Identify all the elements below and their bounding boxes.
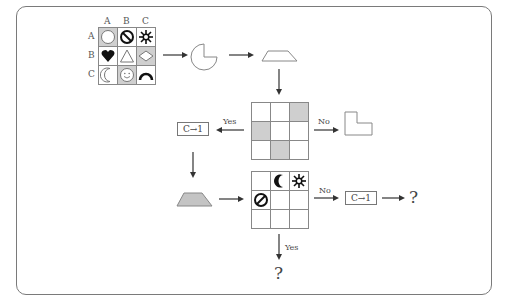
- trapezoid-gray-shape: [176, 192, 214, 208]
- column-label-a: A: [104, 16, 111, 26]
- grid-cell-ab: [118, 28, 137, 47]
- pattern-cell-shaded: [252, 122, 271, 141]
- arrow-down-icon: [188, 152, 198, 180]
- circle-icon: [100, 29, 116, 45]
- sun-icon: [138, 29, 154, 45]
- lower-cell: [252, 191, 271, 210]
- prohibited-icon: [119, 29, 135, 45]
- grid-cell-cb: [118, 66, 137, 85]
- lower-cell: [252, 172, 271, 191]
- arrow-right-icon: [219, 194, 245, 204]
- grid-cell-bb: [118, 47, 137, 66]
- lower-cell: [252, 210, 271, 229]
- smiley-icon: [119, 67, 135, 83]
- pattern-grid: [251, 102, 309, 160]
- trapezoid-outline-shape: [261, 50, 299, 63]
- lower-cell: [271, 172, 290, 191]
- row-label-c: C: [88, 69, 95, 79]
- grid-cell-aa: [99, 28, 118, 47]
- rule-box: C→1: [345, 191, 377, 205]
- lower-cell: [271, 210, 290, 229]
- arrow-right-icon: [163, 50, 189, 60]
- yes-label: Yes: [285, 243, 298, 252]
- rule-box: C→1: [177, 122, 209, 136]
- pattern-cell-shaded: [290, 103, 309, 122]
- pattern-cell: [252, 103, 271, 122]
- pattern-cell: [271, 122, 290, 141]
- grid-cell-ca: [99, 66, 118, 85]
- lower-cell: [271, 191, 290, 210]
- arc-icon: [138, 67, 154, 83]
- grid-cell-cc: [137, 66, 156, 85]
- pattern-cell: [290, 122, 309, 141]
- arrow-right-icon: [382, 193, 406, 203]
- arrow-down-icon: [274, 234, 284, 262]
- arrow-right-icon: [314, 193, 340, 203]
- lower-cell: [290, 191, 309, 210]
- arrow-down-icon: [274, 69, 284, 97]
- lower-cell: [290, 172, 309, 191]
- grid-cell-ac: [137, 28, 156, 47]
- row-label-a: A: [88, 31, 95, 41]
- question-mark-right: ?: [409, 187, 418, 207]
- pattern-cell-shaded: [271, 141, 290, 160]
- pie-missing-quarter-shape: [189, 42, 219, 72]
- triangle-icon: [119, 48, 135, 64]
- crescent-moon-icon: [272, 173, 288, 189]
- sun-icon: [291, 173, 307, 189]
- arrow-left-icon: [215, 125, 245, 135]
- grid-cell-bc: [137, 47, 156, 66]
- lower-symbol-grid: [251, 171, 309, 229]
- lower-cell: [290, 210, 309, 229]
- l-shape: [344, 111, 374, 137]
- row-label-b: B: [88, 50, 95, 60]
- crescent-moon-icon: [100, 67, 116, 83]
- pattern-cell: [252, 141, 271, 160]
- prohibited-icon: [253, 192, 269, 208]
- pattern-cell: [290, 141, 309, 160]
- arrow-right-icon: [229, 50, 255, 60]
- heart-icon: [100, 48, 116, 64]
- column-label-c: C: [142, 16, 149, 26]
- pattern-cell: [271, 103, 290, 122]
- arrow-right-icon: [314, 125, 340, 135]
- grid-cell-ba: [99, 47, 118, 66]
- symbol-grid: [98, 27, 156, 85]
- question-mark-bottom: ?: [274, 263, 283, 283]
- diamond-icon: [138, 48, 154, 64]
- column-label-b: B: [123, 16, 130, 26]
